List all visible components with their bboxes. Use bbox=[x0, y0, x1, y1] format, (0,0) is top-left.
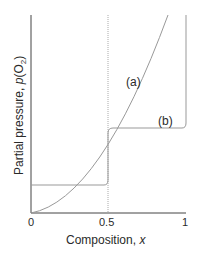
x-axis-label: Composition, x bbox=[66, 233, 146, 247]
annotation-b: (b) bbox=[158, 114, 173, 128]
chart: (a) (b) 0 0.5 1 Composition, x Partial p… bbox=[0, 0, 200, 257]
y-axis-label: Partial pressure, p(O2) bbox=[12, 56, 28, 175]
series-a-curve bbox=[31, 15, 168, 213]
annotation-a: (a) bbox=[126, 75, 141, 89]
x-tick-0: 0 bbox=[28, 216, 34, 228]
x-tick-05: 0.5 bbox=[99, 216, 114, 228]
x-tick-1: 1 bbox=[182, 216, 188, 228]
